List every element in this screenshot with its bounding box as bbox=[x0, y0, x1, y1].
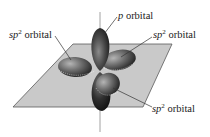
label-sp2-left: sp2 orbital bbox=[9, 28, 52, 40]
label-sp2-bottom: sp2 orbital bbox=[152, 102, 195, 114]
label-p-orbital: p orbital bbox=[117, 10, 153, 21]
leader-p bbox=[104, 17, 117, 34]
label-sp2-right: sp2 orbital bbox=[153, 28, 196, 40]
orbital-diagram-svg: p orbital sp2 orbital sp2 orbital sp2 or… bbox=[0, 0, 210, 137]
orbital-diagram: p orbital sp2 orbital sp2 orbital sp2 or… bbox=[0, 0, 210, 137]
